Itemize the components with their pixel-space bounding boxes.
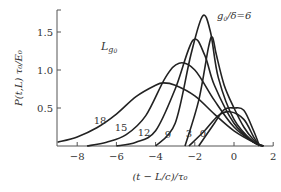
x-tick-label: −4 — [148, 151, 163, 162]
curve-label-15: 15 — [115, 122, 128, 133]
y-tick-label: 1.5 — [37, 27, 53, 38]
curves — [58, 15, 264, 146]
chart-container: −8−6−4−2020.51.01.5 181512930Lg0g0/δ=6(t… — [0, 0, 281, 192]
curve-label-0: 0 — [200, 128, 206, 139]
y-tick-label: 0.5 — [37, 103, 53, 114]
x-tick-label: −2 — [187, 151, 202, 162]
x-tick-label: 0 — [231, 151, 237, 162]
x-tick-label: 2 — [270, 151, 276, 162]
line-chart: −8−6−4−2020.51.01.5 181512930Lg0g0/δ=6(t… — [0, 0, 281, 192]
curve-label-12: 12 — [138, 127, 151, 138]
x-axis-label: (t − L/c)/τ₀ — [132, 171, 187, 182]
curve-18 — [58, 83, 264, 146]
x-tick-label: −8 — [70, 151, 85, 162]
axes: −8−6−4−2020.51.01.5 — [37, 10, 276, 162]
y-axis-label: P(t,L) τ₀/E₀ — [13, 50, 24, 107]
y-tick-label: 1.0 — [37, 65, 53, 76]
curve-label-3: 3 — [186, 128, 192, 139]
curve-label-18: 18 — [94, 115, 107, 126]
corner-label: Lg0 — [100, 40, 117, 54]
curve-label-9: 9 — [165, 129, 171, 140]
param-label: g0/δ=6 — [217, 10, 252, 22]
x-tick-label: −6 — [109, 151, 124, 162]
